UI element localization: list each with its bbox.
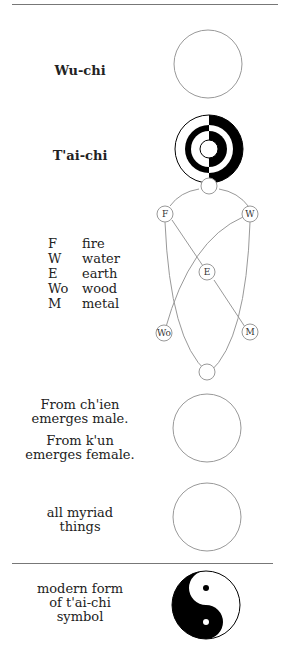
- node-metal: M: [242, 324, 258, 340]
- node-wood: Wo: [156, 325, 172, 341]
- node-earth: E: [199, 264, 215, 280]
- svg-text:M: M: [245, 327, 254, 337]
- svg-text:W: W: [245, 209, 255, 219]
- myriad-things-circle: [173, 483, 241, 551]
- qian-kun-circle: [173, 394, 241, 462]
- node-fire: F: [157, 206, 173, 222]
- five-phases-connections: [165, 189, 250, 372]
- svg-text:Wo: Wo: [157, 328, 171, 338]
- cosmology-diagram: F W E Wo M: [0, 0, 289, 668]
- svg-text:E: E: [204, 267, 211, 277]
- node-water: W: [242, 206, 258, 222]
- wu-chi-circle: [174, 30, 242, 98]
- yin-yang-icon: [172, 571, 240, 639]
- tai-chi-symbol: [175, 115, 243, 183]
- svg-text:F: F: [162, 209, 168, 219]
- tai-chi-base-node: [201, 178, 217, 194]
- five-phases-bottom-node: [199, 364, 215, 380]
